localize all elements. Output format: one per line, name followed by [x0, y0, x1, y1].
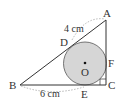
geometry-diagram: A B C D E F O 4 cm 6 cm [0, 0, 125, 102]
center-point [84, 62, 87, 65]
label-c: C [108, 79, 115, 91]
label-f: F [108, 57, 114, 69]
label-b: B [9, 79, 16, 91]
label-e: E [81, 88, 88, 100]
label-d: D [60, 36, 68, 48]
right-angle-marker [100, 79, 106, 85]
label-be-length: 6 cm [40, 88, 60, 99]
label-o: O [81, 66, 89, 78]
label-ad-length: 4 cm [64, 23, 84, 34]
label-a: A [103, 7, 111, 19]
